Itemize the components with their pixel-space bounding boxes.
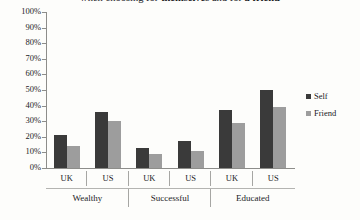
bar-self: [260, 90, 273, 168]
chart-title-emphasis-themselves: themselves: [161, 0, 209, 3]
x-axis-subcategory-label: UK: [129, 169, 170, 188]
y-axis-tick-label: 20%: [1, 132, 41, 141]
bar-friend: [232, 123, 245, 168]
x-axis-category-labels: WealthySuccessfulEducated: [46, 188, 294, 208]
bar-friend: [149, 154, 162, 168]
y-axis-tick-label: 30%: [1, 116, 41, 125]
y-axis-tick-label: 60%: [1, 69, 41, 78]
x-axis-subcategory-labels: UKUSUKUSUKUS: [46, 169, 294, 188]
bar-friend: [273, 107, 286, 168]
x-axis-category-label: Successful: [129, 188, 212, 208]
chart-title-prefix: when choosing for: [80, 0, 161, 3]
x-axis-subcategory-label: UK: [211, 169, 252, 188]
bar-friend: [108, 121, 121, 168]
bar-group: [170, 12, 211, 168]
y-axis-tick-label: 90%: [1, 23, 41, 32]
chart-title-middle: and for: [209, 0, 244, 3]
y-axis-tick-label: 0%: [1, 163, 41, 172]
x-axis-subcategory-label: US: [253, 169, 294, 188]
bar-friend: [191, 151, 204, 168]
bar-group: [46, 12, 87, 168]
legend-item-friend: Friend: [306, 105, 336, 122]
bar-self: [95, 112, 108, 168]
legend-swatch-friend-icon: [306, 111, 311, 116]
x-axis-subcategory-label: UK: [46, 169, 87, 188]
legend-swatch-self-icon: [306, 94, 311, 99]
bar-group: [87, 12, 128, 168]
bar-chart: when choosing for themselves and for a f…: [0, 0, 360, 220]
x-axis-category-label: Educated: [211, 188, 294, 208]
bar-self: [54, 135, 67, 168]
chart-title-emphasis-friend: a friend: [245, 0, 280, 3]
bar-group: [253, 12, 294, 168]
y-axis-tick-label: 100%: [1, 7, 41, 16]
chart-title: when choosing for themselves and for a f…: [0, 0, 360, 4]
chart-legend: Self Friend: [306, 88, 336, 122]
y-axis-tick-label: 50%: [1, 85, 41, 94]
bar-group: [129, 12, 170, 168]
plot-area: [46, 12, 294, 168]
x-axis-subcategory-label: US: [87, 169, 128, 188]
legend-label-self: Self: [314, 88, 328, 105]
bar-self: [219, 110, 232, 168]
y-axis-tick-label: 80%: [1, 38, 41, 47]
bar-self: [136, 148, 149, 168]
bar-friend: [67, 146, 80, 168]
y-axis-tick-label: 40%: [1, 101, 41, 110]
bar-self: [178, 141, 191, 168]
x-axis-category-label: Wealthy: [46, 188, 129, 208]
legend-item-self: Self: [306, 88, 336, 105]
x-axis-subcategory-label: US: [170, 169, 211, 188]
y-axis-labels: 100%90%80%70%60%50%40%30%20%10%0%: [0, 0, 41, 220]
bar-group: [211, 12, 252, 168]
y-axis-tick-label: 10%: [1, 147, 41, 156]
legend-label-friend: Friend: [314, 105, 336, 122]
y-axis-tick-label: 70%: [1, 54, 41, 63]
